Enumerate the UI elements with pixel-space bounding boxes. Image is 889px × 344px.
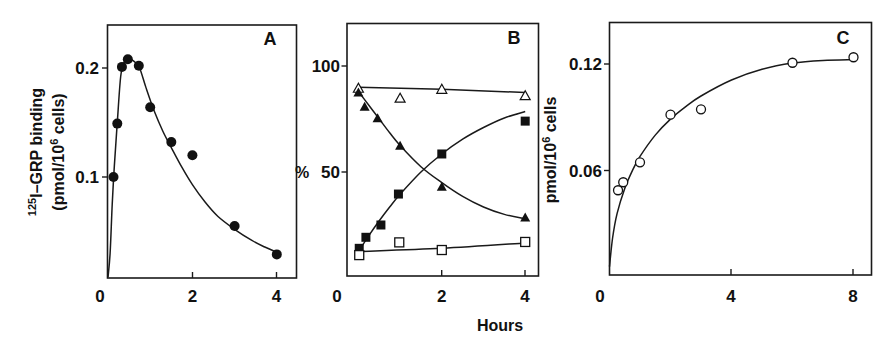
filled-circle-marker <box>230 221 240 231</box>
filled-circle-marker <box>112 119 122 129</box>
panel-c-ytick-label: 0.12 <box>569 55 602 74</box>
open-circle-marker <box>788 58 797 67</box>
open-square-marker <box>355 251 364 260</box>
panel-b-ytick-label: 100 <box>312 57 340 76</box>
open-square-marker <box>437 246 446 255</box>
panel-c-ylabel-post: cells <box>542 97 559 137</box>
filled-circle-marker <box>272 249 282 259</box>
filled-circle-marker <box>166 137 176 147</box>
panel-b-fit-curve <box>359 112 525 251</box>
panel-a-xtick-label: 0 <box>95 287 104 306</box>
panel-b-ytick-label: 50 <box>321 163 340 182</box>
panel-a-ytick-label: 0.1 <box>75 168 99 187</box>
filled-triangle-marker <box>373 113 383 122</box>
panel-a-ylabel-line2-pre: (pmol/10 <box>50 145 67 211</box>
x-axis-label-hours: Hours <box>477 317 523 334</box>
panel-a: 0.2 0.1 0 2 4 A 125I–GRP binding (pmol/1… <box>26 25 297 306</box>
panel-b-label: B <box>508 28 521 48</box>
panel-c-ylabel: pmol/106 cells <box>540 97 559 204</box>
panel-b-xtick-label: 2 <box>437 287 446 306</box>
panel-c-ylabel-pre: pmol/10 <box>542 143 559 204</box>
filled-circle-marker <box>123 54 133 64</box>
panel-c: 0.12 0.06 0 4 8 C pmol/106 cells <box>540 23 872 307</box>
panel-a-ylabel-sup: 125 <box>26 198 38 216</box>
open-circle-marker <box>849 53 858 62</box>
open-circle-marker <box>697 105 706 114</box>
panel-b-ylabel: % <box>295 164 309 181</box>
filled-square-marker <box>437 149 446 158</box>
filled-circle-marker <box>134 61 144 71</box>
panel-c-ytick-label: 0.06 <box>569 162 602 181</box>
panel-b-plot-area <box>353 83 530 259</box>
filled-triangle-marker <box>520 213 530 222</box>
panel-c-xtick-label: 0 <box>595 287 604 306</box>
panel-c-fit-curve <box>610 60 854 267</box>
panel-c-xtick-label: 8 <box>848 287 857 306</box>
panel-a-plot-area <box>108 54 282 277</box>
open-square-marker <box>521 237 530 246</box>
panel-a-xtick-label: 4 <box>272 287 282 306</box>
panel-c-xtick-label: 4 <box>726 287 736 306</box>
panel-a-label: A <box>264 29 277 49</box>
open-circle-marker <box>619 178 628 187</box>
filled-square-marker <box>394 190 403 199</box>
panel-a-ytick-label: 0.2 <box>75 59 99 78</box>
open-circle-marker <box>666 110 675 119</box>
open-triangle-marker <box>395 93 405 102</box>
open-circle-marker <box>636 158 645 167</box>
panel-a-xtick-label: 2 <box>188 287 197 306</box>
panel-a-ylabel: 125I–GRP binding (pmol/106 cells) <box>26 88 67 216</box>
filled-circle-marker <box>187 150 197 160</box>
figure-three-panel-binding-kinetics: 0.2 0.1 0 2 4 A 125I–GRP binding (pmol/1… <box>0 0 889 344</box>
panel-b-xtick-label: 4 <box>520 287 530 306</box>
filled-square-marker <box>376 221 385 230</box>
panel-a-ylabel-line1: I–GRP binding <box>28 88 45 198</box>
filled-circle-marker <box>108 172 118 182</box>
panel-b: 100 50 % 0 2 4 B <box>295 24 539 307</box>
open-circle-marker <box>614 186 623 195</box>
svg-text:pmol/106 cells: pmol/106 cells <box>540 97 559 204</box>
filled-square-marker <box>361 233 370 242</box>
filled-square-marker <box>521 117 530 126</box>
panel-a-fit-curve <box>108 58 277 277</box>
panel-b-xtick-label: 0 <box>332 287 341 306</box>
panel-c-plot-area <box>610 53 859 267</box>
filled-triangle-marker <box>437 182 447 191</box>
filled-circle-marker <box>145 102 155 112</box>
svg-text:125I–GRP binding: 125I–GRP binding <box>26 88 45 216</box>
svg-text:(pmol/106 cells): (pmol/106 cells) <box>48 93 67 210</box>
panel-a-ylabel-line2-post: cells) <box>50 93 67 138</box>
open-square-marker <box>395 238 404 247</box>
filled-triangle-marker <box>360 102 370 111</box>
panel-c-label: C <box>837 28 850 48</box>
